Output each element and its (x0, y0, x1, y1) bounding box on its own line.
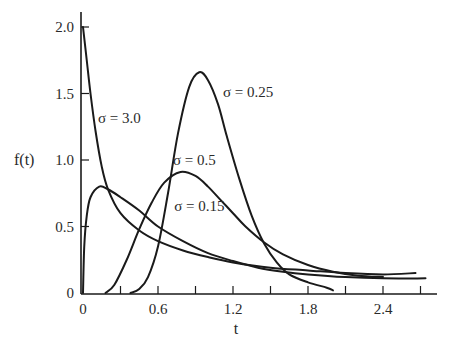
x-tick-label: 1.8 (299, 301, 318, 317)
y-tick-label: 0.5 (55, 219, 74, 235)
y-tick-label: 1.5 (55, 86, 74, 102)
x-tick-label: 0 (79, 301, 87, 317)
curve-label-3: σ = 0.25 (223, 84, 273, 100)
curve-labels: σ = 3.0σ = 0.15σ = 0.5σ = 0.25 (98, 84, 273, 213)
axes (81, 12, 437, 294)
x-tick-label: 1.2 (224, 301, 243, 317)
curves (83, 27, 426, 293)
y-tick-label: 2.0 (55, 19, 74, 35)
curve-label-0: σ = 3.0 (98, 110, 141, 126)
x-tick-label: 0.6 (149, 301, 168, 317)
x-tick-label: 2.4 (374, 301, 393, 317)
curve-series-0 (83, 27, 416, 274)
lognormal-density-chart: 00.61.21.82.4 00.51.01.52.0 σ = 3.0σ = 0… (0, 0, 457, 358)
x-ticks: 00.61.21.82.4 (79, 286, 420, 317)
curve-series-2 (106, 172, 384, 293)
y-axis-title: f(t) (14, 151, 34, 169)
y-tick-label: 0 (67, 285, 75, 301)
y-tick-label: 1.0 (55, 152, 74, 168)
curve-label-2: σ = 0.5 (173, 152, 216, 168)
x-axis-title: t (234, 320, 239, 337)
curve-label-1: σ = 0.15 (174, 198, 224, 214)
